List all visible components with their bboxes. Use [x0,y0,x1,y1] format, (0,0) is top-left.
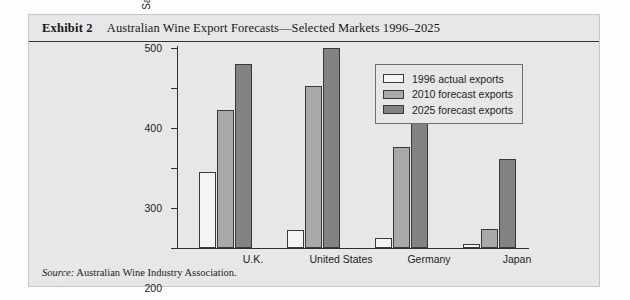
y-axis-title: Sales A $millions (1996 values) [141,0,155,42]
exhibit-header: Exhibit 2 Australian Wine Export Forecas… [29,15,599,42]
y-axis-tick-label: 500 [144,42,162,54]
y-axis-tick-label: 400 [144,122,162,134]
bar [411,123,428,248]
y-axis-tick-label: 200 [144,282,162,294]
legend-swatch-icon [383,105,404,114]
legend-item: 2025 forecast exports [383,103,513,117]
bar-group: U.K. [199,48,252,248]
y-axis-tick: 300 [171,128,177,129]
bar [481,229,498,248]
legend-swatch-icon [383,90,404,99]
y-axis-tick: 200 [171,168,177,169]
bar [463,244,480,248]
bar [287,230,304,248]
legend-label: 2010 forecast exports [412,88,513,100]
bar [393,147,410,248]
y-axis-tick: 0 [171,248,177,249]
bar-group: United States [287,48,340,248]
source-label: Source: [42,267,74,278]
bar-chart: Sales A $millions (1996 values) 01002003… [29,42,601,267]
exhibit-title: Australian Wine Export Forecasts—Selecte… [107,21,440,36]
y-axis-tick: 100 [171,208,177,209]
exhibit-label: Exhibit 2 [42,21,93,36]
legend-label: 2025 forecast exports [412,104,513,116]
bar [235,64,252,248]
bar [323,48,340,248]
bar [217,110,234,248]
bar [199,172,216,248]
y-axis-line [177,46,178,248]
source-note: Source: Australian Wine Industry Associa… [42,267,237,278]
legend-item: 1996 actual exports [383,72,513,86]
y-axis-tick-label: 300 [144,202,162,214]
bar [305,86,322,248]
source-text: Australian Wine Industry Association. [76,267,236,278]
bar [499,159,516,248]
y-axis-tick: 400 [171,88,177,89]
x-axis-line [177,248,529,249]
exhibit-panel: Exhibit 2 Australian Wine Export Forecas… [28,14,600,287]
bar [375,238,392,248]
y-axis-tick: 500 [171,48,177,49]
chart-legend: 1996 actual exports2010 forecast exports… [375,64,523,124]
legend-item: 2010 forecast exports [383,87,513,101]
legend-label: 1996 actual exports [412,73,504,85]
x-axis-category-label: Japan [457,253,577,265]
legend-swatch-icon [383,74,404,83]
